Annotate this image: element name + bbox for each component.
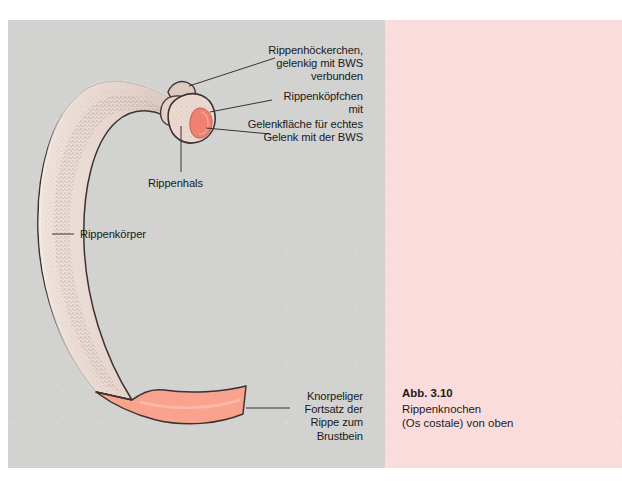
figure-caption: Abb. 3.10 Rippenknochen (Os costale) von… — [402, 386, 602, 431]
figure-page: Rippenhöckerchen, gelenkig mit BWS verbu… — [0, 0, 622, 500]
label-rippenhoeckerchen: Rippenhöckerchen, gelenkig mit BWS verbu… — [268, 44, 363, 84]
label-knorpeliger-fortsatz: Knorpeliger Fortsatz der Rippe zum Brust… — [305, 390, 364, 443]
label-rippenkoerper: Rippenkörper — [80, 228, 146, 241]
rib-bone — [38, 81, 246, 423]
label-rippenkoepfchen: Rippenköpfchen mit — [284, 90, 363, 116]
caption-line-1: Rippenknochen — [402, 402, 602, 417]
leader-head — [210, 100, 272, 112]
leader-tubercle — [189, 58, 275, 86]
label-rippenhals: Rippenhals — [148, 177, 203, 190]
caption-number: Abb. 3.10 — [402, 386, 602, 401]
caption-line-2: (Os costale) von oben — [402, 416, 602, 431]
label-gelenkflaeche: Gelenkfläche für echtes Gelenk mit der B… — [248, 118, 363, 144]
